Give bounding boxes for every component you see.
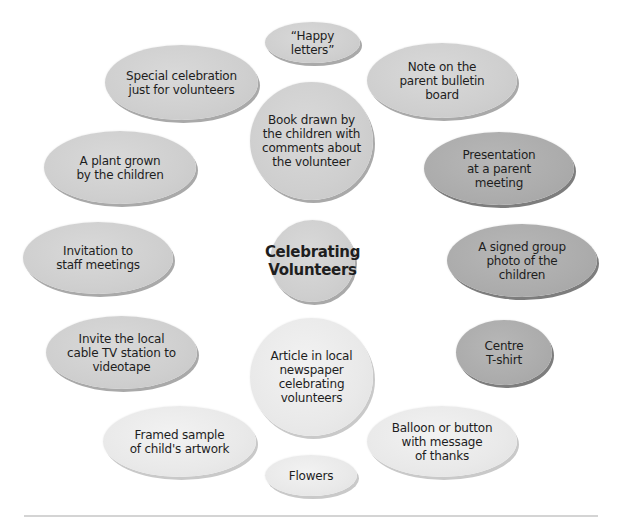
idea-label: Presentation at a parent meeting <box>463 148 536 190</box>
idea-presentation: Presentation at a parent meeting <box>424 132 574 205</box>
idea-flowers: Flowers <box>265 455 357 496</box>
idea-label: Framed sample of child's artwork <box>130 428 230 456</box>
central-topic-label: Celebrating Volunteers <box>265 243 360 279</box>
idea-label: A signed group photo of the children <box>478 240 566 282</box>
idea-newspaper-article: Article in local newspaper celebrating v… <box>250 318 373 436</box>
idea-special-celebration: Special celebration just for volunteers <box>105 45 258 120</box>
idea-label: “Happy letters” <box>269 29 356 57</box>
idea-label: Flowers <box>289 469 334 483</box>
idea-note-bulletin: Note on the parent bulletin board <box>367 43 517 118</box>
idea-label: Article in local newspaper celebrating v… <box>271 349 353 405</box>
idea-invitation-staff: Invitation to staff meetings <box>23 222 173 294</box>
idea-framed-artwork: Framed sample of child's artwork <box>103 406 256 477</box>
bottom-divider <box>24 515 598 517</box>
idea-label: Balloon or button with message of thanks <box>392 421 493 463</box>
idea-happy-letters: “Happy letters” <box>265 22 360 63</box>
idea-label: A plant grown by the children <box>76 154 163 182</box>
central-topic: Celebrating Volunteers <box>270 220 355 302</box>
idea-label: Invitation to staff meetings <box>56 244 140 272</box>
idea-label: Centre T-shirt <box>485 339 524 367</box>
idea-cable-tv: Invite the local cable TV station to vid… <box>46 316 197 389</box>
idea-centre-tshirt: Centre T-shirt <box>456 320 552 385</box>
idea-balloon-button: Balloon or button with message of thanks <box>367 406 517 477</box>
idea-label: Special celebration just for volunteers <box>126 69 237 97</box>
idea-label: Invite the local cable TV station to vid… <box>67 332 176 374</box>
idea-label: Note on the parent bulletin board <box>399 60 484 102</box>
idea-book-drawn: Book drawn by the children with comments… <box>250 82 373 200</box>
celebrating-volunteers-diagram: “Happy letters” Special celebration just… <box>0 0 619 532</box>
idea-signed-photo: A signed group photo of the children <box>447 224 597 297</box>
idea-label: Book drawn by the children with comments… <box>262 113 361 169</box>
idea-plant-grown: A plant grown by the children <box>44 131 196 204</box>
